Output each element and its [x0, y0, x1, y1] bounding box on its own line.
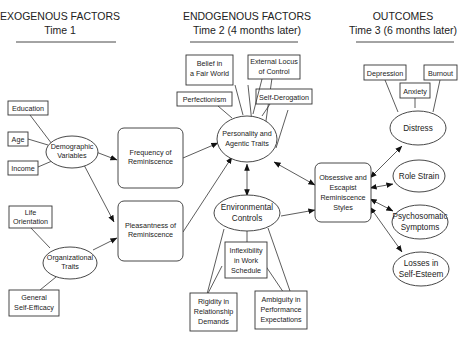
edge-life-orientation-organizational	[30, 227, 50, 248]
node-label: Frequency of	[130, 148, 172, 157]
column-header-outcomes: OUTCOMES Time 3 (6 months later)	[349, 10, 457, 42]
node-label: Depression	[367, 69, 403, 78]
node-label: Self-Efficacy	[14, 303, 54, 312]
column-subtitle: Time 1	[44, 24, 76, 36]
edge-environmental-ambiguity-link	[268, 228, 290, 291]
node-label: Ambiguity in	[261, 295, 300, 304]
node-pleasantness-of-reminiscence: Pleasantness of Reminiscence	[118, 201, 183, 261]
edge-selfderogation-personality-link	[262, 104, 270, 116]
edge-demographic-pleasantness	[84, 165, 114, 222]
node-label: Perfectionism	[183, 95, 227, 104]
node-label: Controls	[232, 214, 263, 223]
edge-selfefficacy-organizational	[40, 277, 56, 290]
node-label: Self-Esteem	[399, 270, 444, 279]
edge-environmental-obsessive	[281, 210, 315, 216]
node-label: Self-Derogation	[259, 93, 309, 102]
node-label: Agentic Traits	[225, 139, 269, 148]
node-label: Life	[25, 208, 37, 217]
node-label: Personality and	[222, 129, 272, 138]
node-label: External Locus	[250, 57, 298, 66]
node-label: Psychosomatic	[392, 212, 447, 221]
edge-age-demographic	[28, 139, 48, 145]
node-depression: Depression	[364, 65, 406, 80]
node-label: Burnout	[428, 69, 453, 78]
node-label: Demands	[198, 317, 229, 326]
node-label: Performance	[260, 305, 301, 314]
node-inflexibility-work-schedule: Inflexibility in Work Schedule	[225, 242, 267, 278]
edge-selfderogation-personality	[276, 110, 288, 148]
node-perfectionism: Perfectionism	[177, 92, 232, 106]
node-losses-self-esteem: Losses in Self-Esteem	[393, 252, 449, 286]
node-distress: Distress	[390, 111, 446, 145]
node-frequency-of-reminiscence: Frequency of Reminiscence	[118, 128, 183, 188]
node-label: Variables	[57, 151, 87, 160]
node-age: Age	[8, 132, 28, 146]
latent-ellipse	[393, 252, 449, 286]
edge-depression-distress	[385, 80, 398, 112]
column-header-endogenous: ENDOGENOUS FACTORS Time 2 (4 months late…	[183, 10, 311, 42]
node-income: Income	[8, 161, 38, 175]
edge-burnout-distress	[433, 80, 440, 112]
node-label: Symptoms	[401, 223, 440, 232]
node-label: Relationship	[194, 307, 234, 316]
node-label: Inflexibility	[229, 246, 263, 255]
latent-ellipse	[214, 195, 280, 231]
node-label: in Work	[234, 256, 259, 265]
node-label: Obsessive and	[319, 173, 367, 182]
node-label: Education	[12, 104, 44, 113]
edge-income-demographic	[38, 161, 52, 167]
node-label: General	[21, 293, 47, 302]
node-label: Schedule	[231, 266, 261, 275]
column-subtitle: Time 2 (4 months later)	[193, 24, 301, 36]
node-anxiety: Anxiety	[400, 83, 430, 98]
node-personality-agentic-traits: Personality and Agentic Traits	[217, 116, 277, 162]
node-life-orientation: Life Orientation	[9, 206, 52, 228]
node-label: Environmental	[221, 203, 274, 212]
edge-demographic-frequency	[96, 152, 117, 160]
node-label: Traits	[61, 262, 79, 271]
node-label: Age	[12, 135, 25, 144]
node-label: Orientation	[13, 217, 48, 226]
edge-environmental-rigidity-link	[206, 229, 224, 298]
node-external-locus: External Locus of Control	[248, 55, 300, 79]
node-role-strain: Role Strain	[393, 160, 445, 192]
node-psychosomatic-symptoms: Psychosomatic Symptoms	[392, 205, 448, 239]
node-label: a Fair World	[190, 69, 229, 78]
node-label: of Control	[258, 67, 290, 76]
node-label: Reminiscence	[128, 157, 173, 166]
node-demographic-variables: Demographic Variables	[46, 136, 98, 168]
node-education: Education	[8, 101, 48, 115]
path-model-diagram: EXOGENOUS FACTORS Time 1 ENDOGENOUS FACT…	[0, 0, 466, 338]
node-organizational-traits: Organizational Traits	[43, 247, 97, 279]
edge-personality-obsessive	[274, 162, 315, 185]
node-label: Belief in	[197, 59, 223, 68]
node-label: Pleasantness of	[125, 221, 176, 230]
column-title: OUTCOMES	[373, 10, 434, 22]
column-title: EXOGENOUS FACTORS	[0, 10, 120, 22]
latent-ellipse	[392, 205, 448, 239]
edge-perfectionism-personality-link	[218, 106, 232, 118]
edge-obsessive-rolestrain	[370, 184, 393, 188]
node-label: Reminiscence	[320, 193, 365, 202]
node-label: Organizational	[47, 253, 94, 262]
node-label: Losses in	[404, 259, 439, 268]
node-label: Styles	[333, 203, 353, 212]
node-obsessive-escapist-styles: Obsessive and Escapist Reminiscence Styl…	[315, 163, 371, 222]
column-subtitle: Time 3 (6 months later)	[349, 24, 457, 36]
node-rigidity-relationship-demands: Rigidity in Relationship Demands	[190, 293, 237, 331]
node-ambiguity-performance-expectations: Ambiguity in Performance Expectations	[255, 291, 307, 329]
node-label: Reminiscence	[128, 230, 173, 239]
node-general-self-efficacy: General Self-Efficacy	[9, 290, 59, 316]
node-burnout: Burnout	[424, 65, 457, 80]
edge-organizational-pleasantness	[93, 238, 117, 250]
node-label: Expectations	[260, 315, 302, 324]
node-label: Income	[11, 164, 35, 173]
node-label: Escapist	[329, 183, 356, 192]
edge-belief-personality-link	[235, 85, 243, 115]
node-label: Role Strain	[399, 172, 440, 181]
node-environmental-controls: Environmental Controls	[214, 195, 280, 231]
column-header-exogenous: EXOGENOUS FACTORS Time 1	[0, 10, 120, 42]
node-belief-fair-world: Belief in a Fair World	[186, 55, 233, 85]
node-label: Anxiety	[403, 87, 427, 96]
node-label: Demographic	[51, 142, 94, 151]
